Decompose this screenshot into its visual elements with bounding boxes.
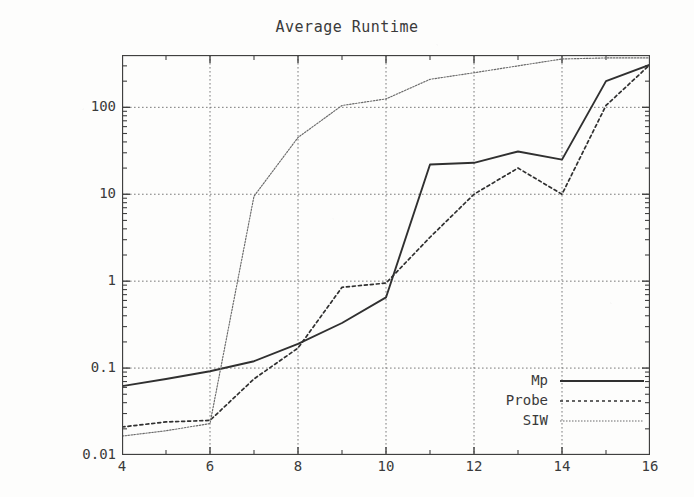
legend-swatches bbox=[556, 372, 650, 434]
x-tick-label: 10 bbox=[366, 458, 406, 474]
legend-label-probe: Probe bbox=[506, 392, 548, 408]
chart-page: Average Runtime CPU-time Seconds 0.010.1… bbox=[0, 0, 694, 497]
legend-label-siw: SIW bbox=[523, 412, 548, 428]
legend-labels: MpProbeSIW bbox=[470, 372, 548, 434]
legend-label-mp: Mp bbox=[531, 372, 548, 388]
chart-legend: MpProbeSIW bbox=[470, 372, 650, 434]
x-tick-label: 8 bbox=[278, 458, 318, 474]
x-tick-label: 16 bbox=[630, 458, 670, 474]
x-tick-label: 6 bbox=[190, 458, 230, 474]
x-tick-label: 12 bbox=[454, 458, 494, 474]
x-tick-label: 14 bbox=[542, 458, 582, 474]
x-tick-label: 4 bbox=[102, 458, 142, 474]
